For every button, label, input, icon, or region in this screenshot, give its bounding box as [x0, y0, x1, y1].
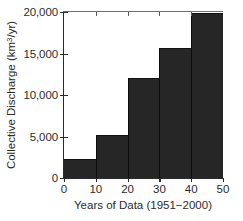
x-tick-label: 50: [217, 183, 230, 195]
y-tick-mark-inner: [64, 137, 68, 138]
bar: [159, 48, 191, 178]
y-tick-label: 0: [52, 172, 58, 184]
plot-area: 05,00010,00015,00020,000 01020304050: [63, 12, 223, 179]
y-tick-label: 10,000: [23, 89, 58, 101]
bar-series: [64, 12, 223, 178]
y-tick-mark-inner: [64, 12, 68, 13]
y-tick-mark-inner: [64, 95, 68, 96]
x-tick-mark: [64, 178, 65, 182]
x-tick-label: 30: [153, 183, 166, 195]
x-tick-mark: [159, 178, 160, 182]
y-tick-label: 20,000: [23, 6, 58, 18]
bar: [191, 13, 223, 178]
x-tick-mark: [223, 178, 224, 182]
y-axis-title-exponent: 3: [5, 38, 14, 42]
y-axis-title: Collective Discharge (km3/yr): [4, 12, 19, 178]
x-tick-mark-top: [159, 12, 160, 16]
y-tick-label: 5,000: [30, 131, 58, 143]
y-axis-title-prefix: Collective Discharge (km: [6, 42, 18, 169]
y-tick-label: 15,000: [23, 48, 58, 60]
x-tick-mark-top: [191, 12, 192, 16]
x-axis-title: Years of Data (1951−2000): [63, 199, 223, 211]
x-tick-mark-top: [96, 12, 97, 16]
x-tick-mark: [191, 178, 192, 182]
x-tick-label: 40: [185, 183, 198, 195]
x-tick-mark: [128, 178, 129, 182]
y-axis-title-suffix: /yr): [6, 21, 18, 38]
chart-figure: 05,00010,00015,00020,000 01020304050 Col…: [0, 0, 243, 221]
x-tick-mark: [96, 178, 97, 182]
bar: [96, 135, 128, 178]
x-tick-label: 20: [121, 183, 134, 195]
x-tick-mark-top: [128, 12, 129, 16]
bar: [64, 159, 96, 178]
bar: [128, 78, 160, 178]
y-tick-mark-inner: [64, 54, 68, 55]
x-tick-label: 0: [61, 183, 67, 195]
x-tick-label: 10: [89, 183, 102, 195]
